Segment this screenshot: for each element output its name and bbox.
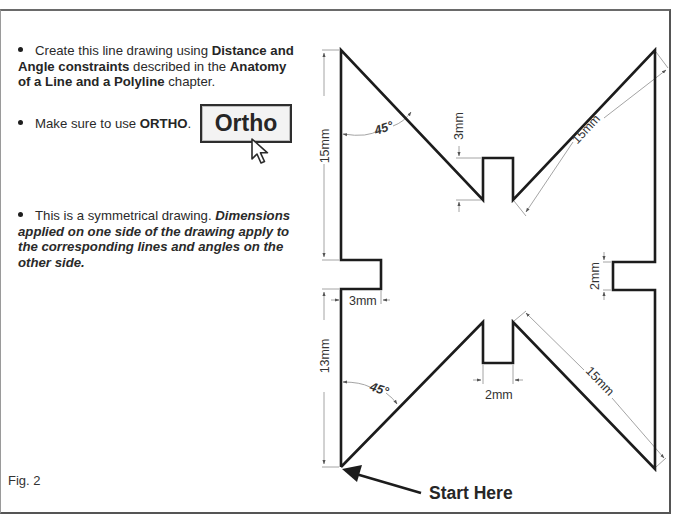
figure-caption: Fig. 2 [8, 473, 41, 488]
dim-left-notch: 3mm [349, 294, 377, 308]
dim-top-notch: 3mm [452, 112, 466, 140]
dim-left-lower: 13mm [318, 339, 332, 374]
dim-upper-right-diagonal: 15mm [569, 112, 603, 147]
line-drawing: 15mm 13mm 3mm 3mm 2mm 2mm 15mm 15mm 45° … [0, 0, 674, 518]
dim-left-upper: 15mm [318, 129, 332, 164]
drawing-outline [341, 50, 655, 469]
angle-lower: 45° [367, 379, 391, 399]
angle-upper: 45° [372, 118, 396, 138]
dimension-lines [322, 50, 668, 467]
dim-lower-right-diagonal: 15mm [583, 364, 617, 399]
start-arrow-icon [342, 465, 421, 493]
dim-right-notch: 2mm [588, 262, 602, 290]
dim-bottom-notch: 2mm [485, 388, 513, 402]
start-here-label: Start Here [429, 483, 513, 504]
